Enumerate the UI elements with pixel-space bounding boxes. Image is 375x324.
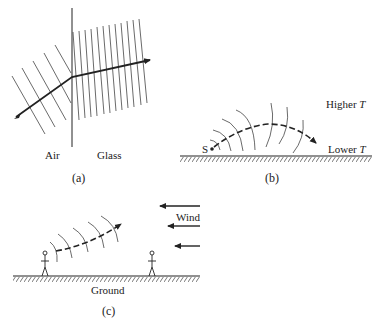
caption-c: (c) — [102, 305, 115, 317]
caption-a: (a) — [72, 172, 85, 184]
glass-label: Glass — [97, 149, 121, 161]
person-left — [41, 251, 49, 276]
figure: Air Glass (a) Higher T Lower T S (b) Win… — [0, 0, 375, 324]
lower-t-label: Lower T — [328, 143, 366, 155]
wind-label: Wind — [176, 211, 200, 223]
caption-b: (b) — [265, 172, 279, 184]
c-wavefronts — [50, 216, 118, 262]
source-label: S — [202, 143, 208, 155]
air-label: Air — [45, 149, 60, 161]
panel-c-drawing — [13, 206, 200, 282]
ground-label: Ground — [91, 284, 125, 296]
higher-t-label: Higher T — [326, 98, 365, 110]
person-right — [148, 251, 156, 276]
air-wavefronts — [12, 45, 71, 134]
panel-a-drawing — [12, 8, 150, 147]
figure-drawing — [0, 0, 375, 324]
